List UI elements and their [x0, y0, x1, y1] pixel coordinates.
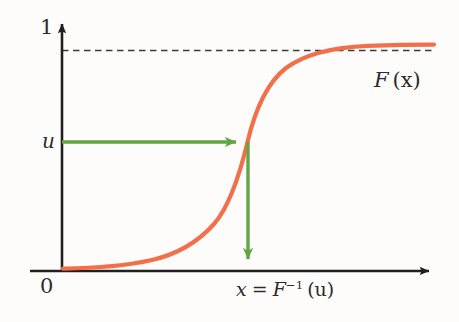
curve-label-f: F [374, 68, 389, 92]
x-quantile-arg: (u) [307, 278, 334, 300]
x-quantile-lhs: x [236, 278, 247, 300]
u-level-label: u [42, 131, 55, 151]
curve-label-arg: (x) [393, 68, 421, 92]
x-quantile-label: x=F−1(u) [236, 280, 334, 299]
y-axis-max-label: 1 [40, 17, 53, 38]
diagram-svg [0, 0, 459, 322]
figure-canvas: 1 0 u F(x) x=F−1(u) [0, 0, 459, 322]
x-quantile-f: F [273, 278, 286, 300]
origin-label: 0 [40, 276, 53, 297]
curve-label-fx: F(x) [374, 70, 421, 91]
x-quantile-equals: = [252, 278, 268, 300]
x-quantile-exponent: −1 [286, 278, 303, 292]
